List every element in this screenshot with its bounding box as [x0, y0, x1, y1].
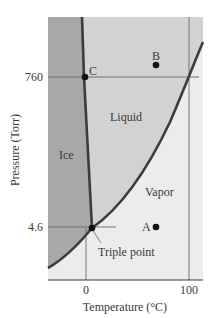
triple-point-label: Triple point — [98, 245, 155, 259]
y-tick-760: 760 — [25, 70, 43, 84]
y-tick-4-6: 4.6 — [28, 220, 43, 234]
point-a-marker — [153, 224, 160, 231]
ice-label: Ice — [59, 148, 74, 162]
y-axis-label: Pressure (Torr) — [8, 114, 22, 186]
x-tick-0: 0 — [83, 283, 89, 297]
liquid-label: Liquid — [110, 110, 142, 124]
phase-diagram: C B A Liquid Ice Vapor Triple point 760 … — [0, 0, 218, 318]
x-tick-100: 100 — [180, 283, 198, 297]
point-a-label: A — [142, 220, 151, 234]
triple-point-marker — [89, 225, 96, 232]
point-c-marker — [82, 74, 89, 81]
x-axis-label: Temperature (°C) — [83, 300, 167, 314]
point-b-label: B — [152, 49, 160, 63]
vapor-label: Vapor — [145, 185, 174, 199]
point-c-label: C — [89, 64, 97, 78]
